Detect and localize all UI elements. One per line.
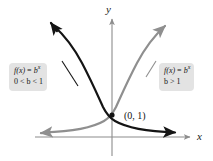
right-equation-fx: f(x) (164, 66, 175, 75)
right-equation-equals: = (175, 66, 184, 75)
left-equation-exponent: x (38, 64, 41, 70)
left-curve-condition: 0 < b < 1 (14, 77, 43, 88)
right-curve-label: f(x) = bx b > 1 (159, 63, 194, 91)
left-curve-label: f(x) = bx 0 < b < 1 (9, 63, 47, 91)
left-equation-fx: f(x) (14, 66, 25, 75)
decreasing-exponential-curve (54, 26, 175, 133)
exponential-function-figure: y x f(x) = bx 0 < b < 1 f(x) = bx b > 1 … (0, 0, 213, 161)
x-axis-label: x (197, 131, 202, 142)
y-intercept-point (109, 112, 114, 117)
right-equation-exponent: x (188, 64, 191, 70)
y-intercept-label: (0, 1) (124, 110, 146, 121)
right-label-leader-line (146, 61, 156, 77)
increasing-exponential-curve (44, 26, 165, 133)
left-curve-equation: f(x) = bx (14, 66, 43, 77)
right-curve-condition: b > 1 (164, 77, 190, 88)
increasing-exponential-left-arrow (41, 132, 50, 133)
y-axis-label: y (106, 4, 111, 15)
right-curve-equation: f(x) = bx (164, 66, 190, 77)
left-label-leader-line (62, 61, 78, 86)
left-equation-equals: = (25, 66, 34, 75)
